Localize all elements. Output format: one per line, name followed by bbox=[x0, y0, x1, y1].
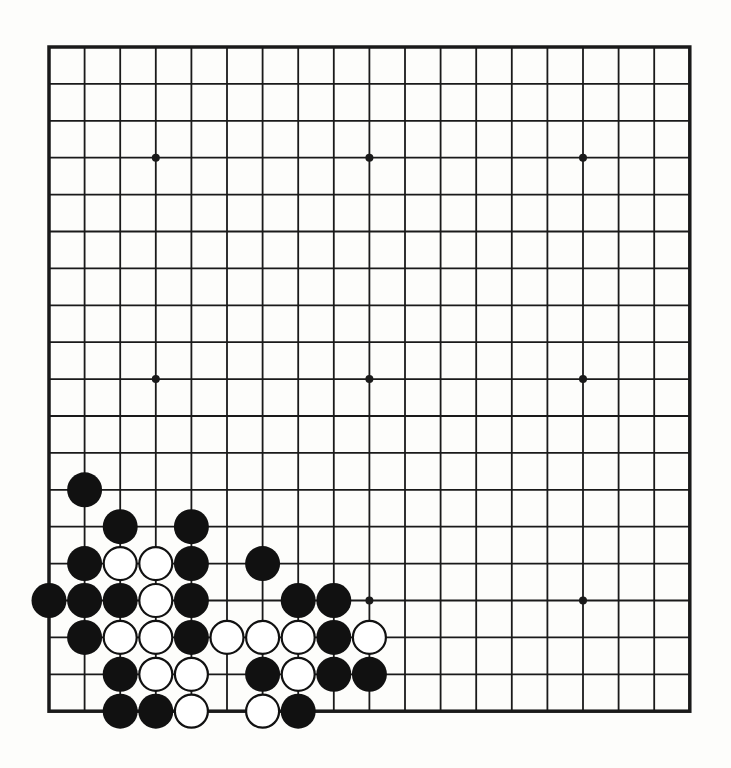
black-stone bbox=[281, 694, 316, 729]
black-stone bbox=[32, 583, 67, 618]
white-stone bbox=[139, 547, 172, 580]
star-point-icon bbox=[579, 597, 587, 605]
star-point-icon bbox=[579, 154, 587, 162]
star-point-icon bbox=[152, 154, 160, 162]
white-stone bbox=[282, 621, 315, 654]
black-stone bbox=[245, 546, 280, 581]
black-stone bbox=[316, 657, 351, 692]
go-board-diagram bbox=[0, 0, 731, 768]
black-stone bbox=[67, 583, 102, 618]
go-board bbox=[0, 0, 731, 768]
black-stone bbox=[352, 657, 387, 692]
black-stone bbox=[316, 583, 351, 618]
black-stone bbox=[174, 583, 209, 618]
white-stone bbox=[211, 621, 244, 654]
black-stone bbox=[174, 546, 209, 581]
star-point-icon bbox=[365, 154, 373, 162]
white-stone bbox=[175, 695, 208, 728]
white-stone bbox=[282, 658, 315, 691]
black-stone bbox=[103, 694, 138, 729]
black-stone bbox=[67, 472, 102, 507]
white-stone bbox=[175, 658, 208, 691]
black-stone bbox=[245, 657, 280, 692]
white-stone bbox=[353, 621, 386, 654]
star-point-icon bbox=[152, 375, 160, 383]
black-stone bbox=[103, 657, 138, 692]
black-stone bbox=[103, 509, 138, 544]
black-stone bbox=[67, 620, 102, 655]
black-stone bbox=[316, 620, 351, 655]
white-stone bbox=[139, 584, 172, 617]
black-stone bbox=[281, 583, 316, 618]
star-point-icon bbox=[365, 375, 373, 383]
star-point-icon bbox=[365, 597, 373, 605]
white-stone bbox=[246, 695, 279, 728]
black-stone bbox=[174, 620, 209, 655]
white-stone bbox=[139, 621, 172, 654]
star-point-icon bbox=[579, 375, 587, 383]
white-stone bbox=[104, 621, 137, 654]
white-stone bbox=[139, 658, 172, 691]
black-stone bbox=[67, 546, 102, 581]
black-stone bbox=[174, 509, 209, 544]
white-stone bbox=[104, 547, 137, 580]
black-stone bbox=[138, 694, 173, 729]
black-stone bbox=[103, 583, 138, 618]
white-stone bbox=[246, 621, 279, 654]
